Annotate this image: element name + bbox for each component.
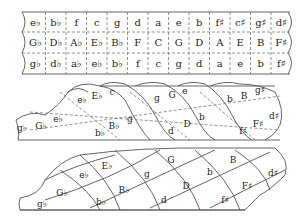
note-label: B♭ (109, 121, 120, 131)
note-label: c♯ (235, 17, 245, 28)
note-label: b♭ (112, 58, 123, 69)
note-label: A (215, 37, 224, 48)
note-label: b (227, 94, 233, 104)
note-label: B (257, 37, 264, 48)
note-label: e♭ (91, 58, 102, 69)
note-label: D♭ (49, 37, 62, 48)
note-label: b (199, 112, 205, 122)
note-label: a (217, 58, 223, 69)
note-label: D (182, 181, 189, 191)
note-label: D (183, 119, 190, 129)
note-label: e (182, 86, 187, 96)
note-label: c (109, 87, 114, 97)
note-label: B♭ (119, 185, 130, 195)
note-label: g♭ (37, 199, 47, 209)
note-label: g (176, 58, 183, 69)
note-label: B (230, 155, 237, 165)
note-label: E♭ (91, 37, 103, 48)
note-label: E♭ (92, 91, 103, 101)
note-label: C (154, 37, 162, 48)
note-label: G (175, 37, 183, 48)
note-label: e♭ (53, 114, 63, 124)
note-label: D (195, 37, 203, 48)
note-label: g (154, 93, 160, 103)
note-label: b (258, 58, 264, 69)
note-label: F (134, 37, 141, 48)
note-label: g (144, 169, 150, 179)
note-label: d (135, 17, 142, 28)
note-label: a (155, 17, 161, 28)
note-label: f♯ (239, 126, 247, 136)
note-label: d♯ (268, 168, 278, 178)
note-label: c (155, 58, 161, 69)
note-label: G (168, 90, 175, 100)
note-label: f♯ (221, 195, 229, 205)
note-label: g♭ (30, 58, 41, 69)
cone-surface: g♭G♭e♭E♭b♭B♭gGdDbBf♯F♯d♯ (19, 148, 286, 210)
note-label: G♭ (35, 121, 46, 131)
note-label: e♭ (30, 17, 41, 28)
note-label: g♯ (255, 17, 266, 28)
note-label: E (237, 37, 244, 48)
note-label: f♯ (215, 17, 224, 28)
note-label: G (167, 155, 174, 165)
note-label: B (241, 91, 248, 101)
note-label: F♯ (253, 119, 264, 129)
note-label: b (207, 167, 213, 177)
note-label: g♭ (17, 123, 27, 133)
note-label: d (196, 58, 203, 69)
note-label: G♭ (56, 188, 67, 198)
note-label: b♭ (95, 128, 105, 138)
note-label: e♭ (79, 170, 89, 180)
note-label: e (176, 17, 182, 28)
helix-coil: g♭G♭e♭e♭E♭cb♭B♭ggGedDbbBg♯f♯F♯d♯ (16, 82, 282, 140)
note-label: d♯ (269, 111, 279, 121)
note-label: b♭ (50, 17, 61, 28)
note-label: d (161, 195, 167, 205)
note-label: F♯ (275, 37, 287, 48)
note-label: A♭ (69, 37, 82, 48)
note-label: e (237, 58, 243, 69)
note-label: b♭ (96, 197, 106, 207)
note-label: E♭ (102, 161, 113, 171)
note-label: G♭ (29, 37, 42, 48)
note-label: f♯ (277, 58, 286, 69)
tonnetz-diagram: e♭b♭fcgdaebf♯c♯g♯d♯G♭D♭A♭E♭B♭FCGDAEBF♯g♭… (0, 0, 303, 219)
note-label: e♭ (77, 95, 87, 105)
flat-strip: e♭b♭fcgdaebf♯c♯g♯d♯G♭D♭A♭E♭B♭FCGDAEBF♯g♭… (22, 12, 292, 74)
note-label: g (114, 17, 121, 28)
note-label: F♯ (242, 181, 253, 191)
note-label: B♭ (111, 37, 123, 48)
note-label: f (74, 17, 79, 28)
note-label: c (94, 17, 100, 28)
note-label: d♭ (50, 58, 61, 69)
note-label: f (136, 58, 141, 69)
note-label: a♭ (71, 58, 82, 69)
note-label: d♯ (276, 17, 287, 28)
note-label: b (196, 17, 202, 28)
note-label: d (168, 126, 174, 136)
note-label: g♯ (255, 85, 265, 95)
note-label: g (127, 114, 133, 124)
